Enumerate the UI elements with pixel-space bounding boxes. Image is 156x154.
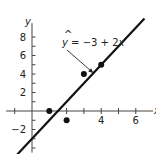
data-point bbox=[64, 117, 70, 123]
y-tick-label: 6 bbox=[20, 50, 26, 61]
x-axis-label: x bbox=[153, 105, 156, 116]
annotation-arrow bbox=[67, 50, 93, 73]
equation-text: y = −3 + 2x bbox=[61, 37, 125, 48]
y-tick-label: 2 bbox=[20, 87, 26, 98]
x-tick-label: 6 bbox=[133, 115, 139, 126]
x-tick-label: 4 bbox=[98, 115, 104, 126]
y-tick-label: −2 bbox=[11, 124, 26, 135]
data-point bbox=[81, 71, 87, 77]
data-point bbox=[98, 62, 104, 68]
equation-body: = −3 + 2 bbox=[68, 37, 119, 48]
data-point bbox=[46, 108, 52, 114]
equation-x: x bbox=[118, 37, 125, 48]
y-axis-label: y bbox=[24, 16, 32, 27]
y-tick-label: 8 bbox=[20, 32, 26, 43]
y-tick-label: 4 bbox=[20, 69, 26, 80]
regression-chart: 468642−2 x y ^ y = −3 + 2x bbox=[0, 0, 156, 154]
